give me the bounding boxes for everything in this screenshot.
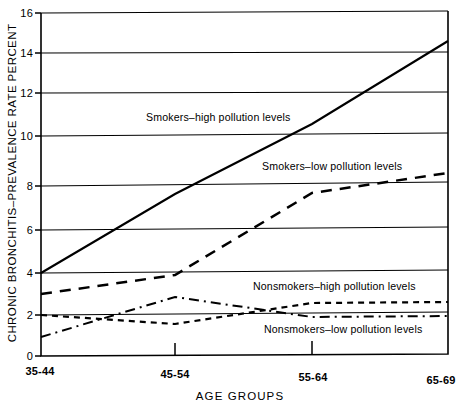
series-smokers-low-pollution bbox=[41, 173, 448, 294]
y-tick-label: 0 bbox=[27, 350, 33, 362]
y-axis-tick-labels: 16 14 12 10 8 6 4 2 0 bbox=[20, 7, 33, 362]
y-tick-label: 4 bbox=[27, 267, 33, 279]
line-chart-canvas: CHRONIC BRONCHITIS–PREVALENCE RATE PERCE… bbox=[0, 0, 459, 410]
y-tick-label: 14 bbox=[20, 47, 33, 59]
annotation-nonsmokers-high: Nonsmokers–high pollution levels bbox=[253, 280, 416, 292]
chart-figure: CHRONIC BRONCHITIS–PREVALENCE RATE PERCE… bbox=[0, 0, 459, 410]
x-tick-label: 55-64 bbox=[298, 371, 328, 383]
x-axis-tick-marks bbox=[175, 341, 312, 355]
y-axis-tick-marks bbox=[35, 13, 41, 356]
y-tick-label: 2 bbox=[27, 309, 33, 321]
annotation-nonsmokers-low: Nonsmokers–low pollution levels bbox=[264, 323, 422, 335]
x-axis-title: AGE GROUPS bbox=[196, 390, 284, 402]
x-axis-tick-labels: 35-44 45-54 55-64 65-69 bbox=[25, 365, 455, 386]
x-tick-label: 35-44 bbox=[25, 365, 55, 377]
y-tick-label: 10 bbox=[20, 130, 33, 142]
y-axis-title: CHRONIC BRONCHITIS–PREVALENCE RATE PERCE… bbox=[6, 24, 18, 343]
annotation-smokers-high: Smokers–high pollution levels bbox=[146, 111, 291, 123]
series-smokers-high-pollution bbox=[41, 41, 448, 273]
y-tick-label: 16 bbox=[20, 7, 33, 19]
y-tick-label: 12 bbox=[20, 87, 33, 99]
y-tick-label: 6 bbox=[27, 224, 33, 236]
x-tick-label: 65-69 bbox=[426, 374, 455, 386]
annotation-smokers-low: Smokers–low pollution levels bbox=[262, 160, 402, 172]
x-tick-label: 45-54 bbox=[160, 368, 190, 380]
y-tick-label: 8 bbox=[27, 180, 33, 192]
